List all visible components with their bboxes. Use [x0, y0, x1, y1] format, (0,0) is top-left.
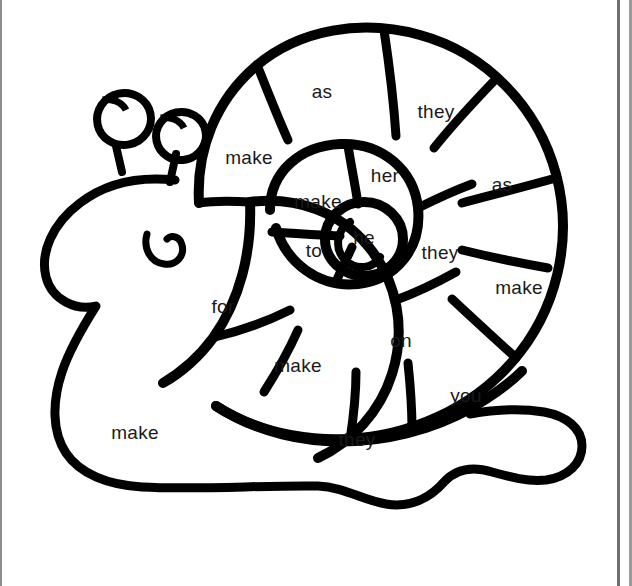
shell-word-shell-outer-right-lower: make [495, 277, 543, 299]
shell-word-shell-inner-bottom-left: to [306, 240, 322, 262]
shell-word-shell-outer-top-right: they [417, 101, 454, 123]
shell-word-shell-mid-bottom: make [274, 355, 322, 377]
shell-word-shell-outer-right-upper: as [492, 174, 513, 196]
shell-word-shell-outer-bottom-right: you [450, 385, 482, 407]
shell-word-shell-mid-left: for [211, 296, 234, 318]
worksheet-page: makeastheyasmakeyoutheymakeforontheyherm… [0, 0, 632, 586]
shell-word-shell-outer-top: as [312, 81, 333, 103]
shell-word-shell-center: he [353, 227, 375, 249]
shell-word-shell-inner-left: make [294, 191, 342, 213]
shell-word-shell-mid-bottom-right: on [390, 330, 412, 352]
shell-word-shell-outer-bottom: they [338, 429, 375, 451]
shell-word-body-foot-left: make [111, 422, 159, 444]
snail-eye-left-icon [92, 88, 156, 150]
shell-word-shell-inner-top: her [371, 165, 399, 187]
shell-word-shell-outer-top-left: make [225, 147, 273, 169]
shell-word-shell-mid-right: they [421, 242, 458, 264]
